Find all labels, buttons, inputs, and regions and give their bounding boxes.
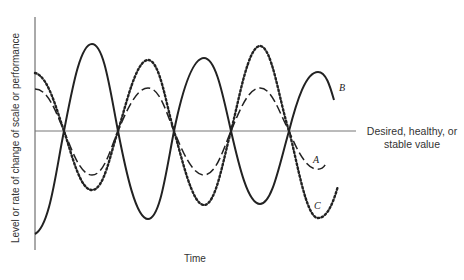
curve-b-label: B (339, 82, 345, 93)
reference-label-line-2: stable value (360, 138, 464, 151)
y-axis-label: Level or rate of change of scale or perf… (4, 20, 26, 256)
reference-label-line-1: Desired, healthy, or (360, 125, 464, 138)
y-axis-label-text: Level or rate of change of scale or perf… (10, 33, 21, 243)
curve-c-label: C (314, 200, 321, 211)
reference-line-label: Desired, healthy, or stable value (360, 125, 464, 151)
x-axis-label: Time (184, 253, 206, 264)
curve-c-dotted (35, 46, 338, 218)
curve-a-label: A (313, 154, 319, 165)
curve-b-solid (35, 44, 334, 234)
